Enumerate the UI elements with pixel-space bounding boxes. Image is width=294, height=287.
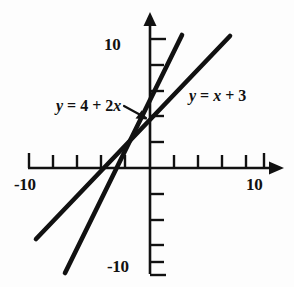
equation-label-line-1-variable: x <box>113 97 121 114</box>
equation-label-line-2: y = x + 3 <box>189 88 246 104</box>
x-axis-tick-label-negative-10: -10 <box>14 176 36 193</box>
line-y-equals-4-plus-2x <box>65 35 182 273</box>
coordinate-plot <box>0 0 294 287</box>
equation-label-line-1-operator: = 4 + 2 <box>63 97 113 114</box>
equation-label-line-1: y = 4 + 2x <box>56 98 121 114</box>
y-axis-tick-label-negative-10: -10 <box>107 258 129 275</box>
x-axis-ticks <box>29 153 264 168</box>
graph-figure: 10 -10 -10 10 y = 4 + 2x y = x + 3 <box>0 0 294 287</box>
x-axis-tick-label-10: 10 <box>246 176 262 193</box>
equation-label-line-2-operator: = <box>196 87 213 104</box>
equation-label-line-2-rest: + 3 <box>221 87 246 104</box>
y-axis-tick-label-10: 10 <box>104 36 120 53</box>
y-axis-arrowhead-icon <box>144 12 157 26</box>
x-axis-arrowhead-icon <box>269 162 284 175</box>
